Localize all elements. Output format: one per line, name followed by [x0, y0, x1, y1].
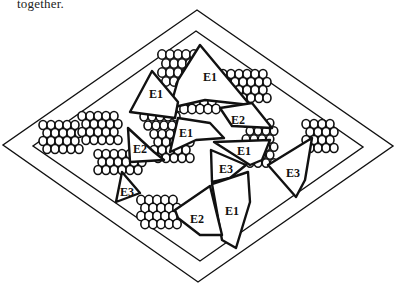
- circle-cluster: [78, 112, 122, 145]
- circle-icon: [255, 94, 263, 103]
- circle-icon: [158, 68, 166, 77]
- cell-e3: E3: [116, 172, 140, 202]
- cell-label: E3: [219, 162, 233, 176]
- circle-icon: [141, 219, 149, 228]
- cell-label: E2: [133, 142, 147, 156]
- circle-icon: [67, 145, 75, 154]
- circle-icon: [110, 166, 118, 175]
- cell-e1: E1: [170, 118, 224, 152]
- circle-icon: [59, 145, 67, 154]
- circle-icon: [174, 50, 182, 59]
- circle-icon: [149, 219, 157, 228]
- circle-icon: [263, 94, 271, 103]
- circle-icon: [178, 154, 186, 163]
- circle-icon: [182, 50, 190, 59]
- cell-e2: E2: [220, 103, 272, 128]
- circle-icon: [106, 136, 114, 145]
- cell-label: E1: [237, 144, 251, 158]
- circle-icon: [82, 136, 90, 145]
- circle-icon: [158, 50, 166, 59]
- circle-icon: [170, 154, 178, 163]
- circle-icon: [170, 59, 178, 68]
- circle-icon: [126, 166, 134, 175]
- circle-icon: [162, 59, 170, 68]
- circle-icon: [43, 145, 51, 154]
- circle-icon: [322, 144, 330, 153]
- circle-icon: [160, 121, 168, 130]
- circle-icon: [144, 121, 152, 130]
- circle-icon: [152, 121, 160, 130]
- circle-icon: [114, 136, 122, 145]
- cell-label: E1: [203, 70, 217, 84]
- circle-icon: [75, 145, 83, 154]
- circle-icon: [314, 144, 322, 153]
- cell-label: E3: [286, 166, 300, 180]
- circle-icon: [204, 104, 212, 113]
- circle-icon: [330, 144, 338, 153]
- cell-label: E2: [231, 113, 245, 127]
- circle-icon: [134, 166, 142, 175]
- cell-label: E1: [225, 204, 239, 218]
- cell-diagram: E1E1E2E1E2E1E3E3E3E1E2: [0, 0, 395, 285]
- circle-icon: [90, 136, 98, 145]
- circle-cluster: [39, 121, 83, 154]
- circle-icon: [270, 143, 278, 152]
- cell-label: E1: [149, 87, 163, 101]
- circle-icon: [166, 68, 174, 77]
- cell-label: E2: [190, 212, 204, 226]
- circle-icon: [196, 104, 204, 113]
- cell-outline: [220, 103, 272, 128]
- cell-label: E1: [179, 126, 193, 140]
- cell-e1: E1: [212, 172, 250, 248]
- circle-icon: [94, 166, 102, 175]
- circle-icon: [266, 151, 274, 160]
- circle-icon: [102, 166, 110, 175]
- circle-icon: [165, 219, 173, 228]
- circle-icon: [166, 50, 174, 59]
- circle-icon: [212, 104, 220, 113]
- cell-label: E3: [120, 185, 134, 199]
- circle-icon: [51, 145, 59, 154]
- circle-icon: [188, 104, 196, 113]
- circle-icon: [98, 136, 106, 145]
- circle-icon: [157, 219, 165, 228]
- circle-icon: [186, 154, 194, 163]
